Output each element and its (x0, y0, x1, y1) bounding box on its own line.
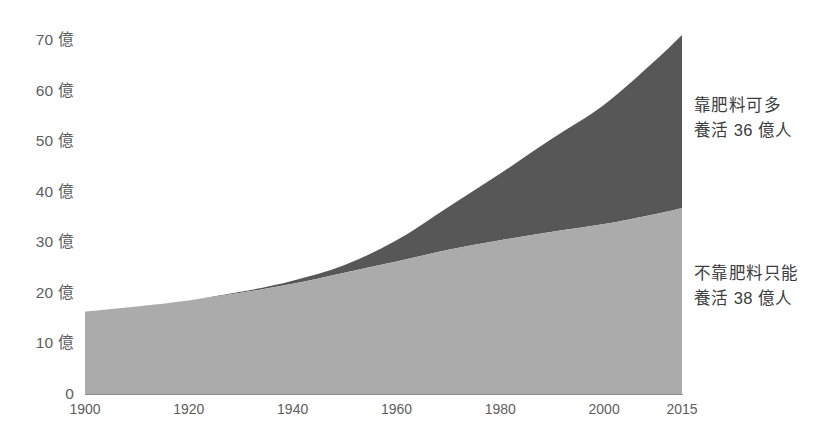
y-axis-tick-0: 0 (0, 386, 74, 402)
y-axis-tick-50: 50 億 (0, 133, 74, 149)
annotation-lower-line2: 養活 38 億人 (694, 286, 798, 311)
area-chart-svg (85, 20, 682, 395)
x-axis-tick-2015: 2015 (666, 402, 697, 416)
x-axis-tick-1940: 1940 (277, 402, 308, 416)
x-axis-tick-2000: 2000 (589, 402, 620, 416)
x-axis-tick-1960: 1960 (381, 402, 412, 416)
annotation-upper-line2: 養活 36 億人 (694, 118, 793, 143)
y-axis-tick-70: 70 億 (0, 32, 74, 48)
y-axis-tick-60: 60 億 (0, 83, 74, 99)
x-axis-tick-1900: 1900 (69, 402, 100, 416)
plot-area (85, 20, 682, 395)
area-series-without-fertilizer (85, 208, 682, 394)
annotation-without-fertilizer: 不靠肥料只能 養活 38 億人 (694, 261, 798, 311)
x-axis-tick-1920: 1920 (173, 402, 204, 416)
y-axis-tick-20: 20 億 (0, 285, 74, 301)
y-axis-tick-10: 10 億 (0, 335, 74, 351)
x-axis-tick-labels: 1900192019401960198020002015 (0, 402, 838, 426)
y-axis-tick-40: 40 億 (0, 184, 74, 200)
annotation-upper-line1: 靠肥料可多 (694, 93, 793, 118)
x-axis-tick-1980: 1980 (485, 402, 516, 416)
annotation-lower-line1: 不靠肥料只能 (694, 261, 798, 286)
annotation-fertilizer-enabled: 靠肥料可多 養活 36 億人 (694, 93, 793, 143)
chart-canvas: 70 億60 億50 億40 億30 億20 億10 億0 1900192019… (0, 0, 838, 445)
y-axis-tick-labels: 70 億60 億50 億40 億30 億20 億10 億0 (0, 0, 74, 445)
y-axis-tick-30: 30 億 (0, 234, 74, 250)
x-axis-line (85, 394, 683, 395)
